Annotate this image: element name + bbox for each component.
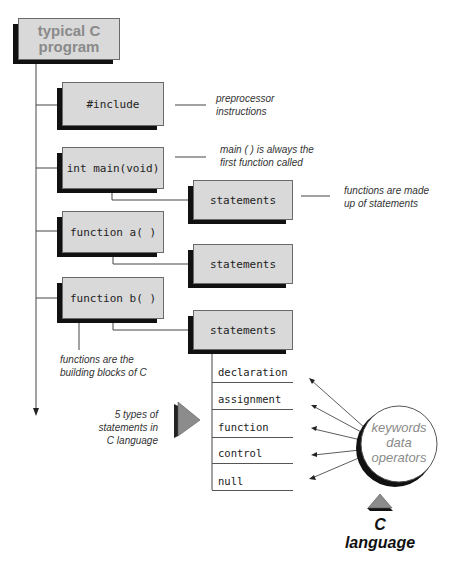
note-line: functions are made [344,184,429,197]
statement-type-declaration: declaration [218,366,288,378]
note-line: statements in [88,421,158,434]
note-line: up of statements [344,197,429,210]
circle-line: keywords [361,420,437,435]
note-line: instructions [216,105,274,118]
note-main-first: main ( ) is always the first function ca… [220,143,314,169]
note-line: main ( ) is always the [220,143,314,156]
note-line: preprocessor [216,92,274,105]
title-box: typical C program [18,18,120,60]
statements-node-2: statements [193,244,293,284]
statements-box-2: statements [193,244,293,284]
title-node: typical C program [18,18,120,60]
statement-type-assignment: assignment [218,393,281,405]
note-five-types: 5 types of statements in C language [88,408,158,447]
note-functions-statements: functions are made up of statements [344,184,429,210]
note-line: functions are the [60,353,147,366]
function-b-box: function b( ) [62,277,164,319]
title-line-1: typical C [38,23,101,39]
main-box: int main(void) [62,147,164,189]
c-language-label: C language [340,516,420,552]
statement-type-function: function [218,421,269,433]
circle-line: data [361,435,437,450]
title-line-2: program [38,39,101,55]
list-divider [212,409,293,410]
statements-box-3: statements [193,310,293,350]
function-a-node: function a( ) [62,211,164,253]
main-node: int main(void) [62,147,164,189]
note-line: C language [88,434,158,447]
circle-label: keywords data operators [361,420,437,465]
include-box: #include [62,82,164,126]
note-line: 5 types of [88,408,158,421]
statements-box-1: statements [193,180,293,220]
note-line: first function called [220,156,314,169]
list-divider [212,463,293,464]
statement-type-null: null [218,475,243,487]
footer-line: C [340,516,420,534]
list-divider [212,490,293,491]
list-divider [212,382,293,383]
statements-node-3: statements [193,310,293,350]
note-building-blocks: functions are the building blocks of C [60,353,147,379]
circle-line: operators [361,450,437,465]
statements-node-1: statements [193,180,293,220]
function-a-box: function a( ) [62,211,164,253]
list-divider [212,437,293,438]
include-node: #include [62,82,164,126]
note-preprocessor: preprocessor instructions [216,92,274,118]
function-b-node: function b( ) [62,277,164,319]
note-line: building blocks of C [60,366,147,379]
footer-line: language [340,534,420,552]
statement-type-control: control [218,447,262,459]
